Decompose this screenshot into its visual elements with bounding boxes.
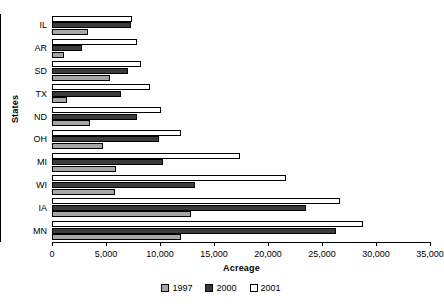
legend-swatch-2000 bbox=[205, 284, 213, 292]
bar-ia-2000 bbox=[52, 205, 306, 211]
bar-nd-2000 bbox=[52, 114, 137, 120]
legend-swatch-2001 bbox=[250, 284, 258, 292]
bar-oh-2000 bbox=[52, 136, 159, 142]
y-axis-tick-label-wi: WI bbox=[7, 180, 47, 190]
category-row: OH bbox=[52, 128, 430, 151]
bar-oh-1997 bbox=[52, 143, 103, 149]
legend-label-2001: 2001 bbox=[261, 283, 281, 293]
y-axis-tick-label-tx: TX bbox=[7, 89, 47, 99]
plot-area: ILARSDTXNDOHMIWIIAMN bbox=[52, 14, 430, 242]
x-axis-tick-mark bbox=[376, 242, 377, 246]
category-row: IL bbox=[52, 14, 430, 37]
bar-oh-2001 bbox=[52, 130, 181, 136]
x-axis-tick-label: 35,000 bbox=[416, 249, 444, 260]
bar-ia-2001 bbox=[52, 198, 340, 204]
bar-mi-1997 bbox=[52, 166, 116, 172]
y-axis-tick-label-oh: OH bbox=[7, 134, 47, 144]
y-axis-tick-label-ar: AR bbox=[7, 43, 47, 53]
bar-ar-1997 bbox=[52, 52, 64, 58]
bar-tx-1997 bbox=[52, 97, 67, 103]
bar-ar-2001 bbox=[52, 39, 137, 45]
x-axis-tick-label: 10,000 bbox=[146, 249, 174, 260]
x-axis-tick-mark bbox=[268, 242, 269, 246]
x-axis-tick-label: 20,000 bbox=[254, 249, 282, 260]
bar-nd-1997 bbox=[52, 120, 90, 126]
x-axis-tick-label: 25,000 bbox=[308, 249, 336, 260]
bar-wi-2000 bbox=[52, 182, 195, 188]
bar-il-2000 bbox=[52, 22, 131, 28]
bar-tx-2001 bbox=[52, 84, 150, 90]
bar-ar-2000 bbox=[52, 45, 82, 51]
y-axis-tick-label-mn: MN bbox=[7, 226, 47, 236]
category-row: MN bbox=[52, 219, 430, 242]
category-row: TX bbox=[52, 82, 430, 105]
x-axis-tick-mark bbox=[430, 242, 431, 246]
category-row: SD bbox=[52, 60, 430, 83]
x-axis-tick-label: 30,000 bbox=[362, 249, 390, 260]
legend-item-2000: 2000 bbox=[205, 283, 236, 293]
x-axis-tick-label: 15,000 bbox=[200, 249, 228, 260]
x-axis-tick-mark bbox=[106, 242, 107, 246]
category-row: IA bbox=[52, 196, 430, 219]
bar-il-1997 bbox=[52, 29, 88, 35]
y-axis-tick-label-ia: IA bbox=[7, 203, 47, 213]
bar-wi-1997 bbox=[52, 189, 115, 195]
legend-label-2000: 2000 bbox=[216, 283, 236, 293]
y-axis-tick-label-sd: SD bbox=[7, 66, 47, 76]
x-axis-tick-mark bbox=[322, 242, 323, 246]
category-row: MI bbox=[52, 151, 430, 174]
chart-legend: 199720002001 bbox=[0, 283, 442, 293]
bar-ia-1997 bbox=[52, 211, 191, 217]
x-axis-tick-label: 0 bbox=[49, 249, 54, 260]
bar-nd-2001 bbox=[52, 107, 161, 113]
bar-mi-2001 bbox=[52, 153, 240, 159]
x-axis-tick-mark bbox=[52, 242, 53, 246]
bar-tx-2000 bbox=[52, 91, 121, 97]
x-axis-line bbox=[52, 242, 431, 243]
bar-mi-2000 bbox=[52, 159, 163, 165]
category-row: WI bbox=[52, 174, 430, 197]
y-axis-line bbox=[0, 14, 1, 242]
bar-mn-1997 bbox=[52, 234, 181, 240]
category-row: ND bbox=[52, 105, 430, 128]
bar-il-2001 bbox=[52, 16, 132, 22]
legend-swatch-1997 bbox=[161, 284, 169, 292]
bar-sd-2000 bbox=[52, 68, 128, 74]
x-axis-title: Acreage bbox=[52, 263, 431, 273]
category-row: AR bbox=[52, 37, 430, 60]
y-axis-tick-label-il: IL bbox=[7, 20, 47, 30]
y-axis-tick-label-nd: ND bbox=[7, 112, 47, 122]
x-axis-tick-mark bbox=[160, 242, 161, 246]
bar-wi-2001 bbox=[52, 175, 286, 181]
x-axis-tick-mark bbox=[214, 242, 215, 246]
bar-mn-2001 bbox=[52, 221, 363, 227]
bar-mn-2000 bbox=[52, 228, 336, 234]
bar-sd-1997 bbox=[52, 75, 110, 81]
y-axis-tick-label-mi: MI bbox=[7, 157, 47, 167]
bar-sd-2001 bbox=[52, 61, 141, 67]
legend-label-1997: 1997 bbox=[172, 283, 192, 293]
legend-item-1997: 1997 bbox=[161, 283, 192, 293]
x-axis-tick-label: 5,000 bbox=[95, 249, 118, 260]
legend-item-2001: 2001 bbox=[250, 283, 281, 293]
